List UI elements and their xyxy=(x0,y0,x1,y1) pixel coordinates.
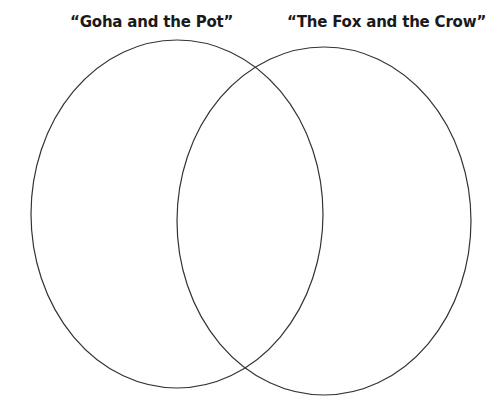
venn-diagram xyxy=(0,0,497,415)
ellipse-the-fox-and-the-crow xyxy=(177,47,471,395)
